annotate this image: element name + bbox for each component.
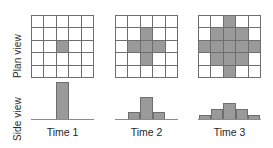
plan-cell-r2-c2 (211, 28, 222, 39)
plan-cell-r4-c5 (166, 53, 177, 64)
plan-cell-r3-c3 (224, 41, 235, 52)
plan-cell-r5-c3 (141, 66, 152, 77)
plan-cell-r3-c5 (249, 41, 260, 52)
side-view-baseline (198, 119, 261, 120)
side-view-bar-3 (223, 103, 235, 119)
side-view-bar-4 (153, 112, 165, 119)
plan-cell-r2-c3 (141, 28, 152, 39)
plan-cell-r5-c5 (166, 66, 177, 77)
side-view-chart-time-1 (31, 82, 94, 120)
plan-cell-r4-c3 (141, 53, 152, 64)
plan-cell-r4-c5 (249, 53, 260, 64)
plan-cell-r3-c2 (128, 41, 139, 52)
side-view-bar-2 (211, 109, 223, 119)
plan-cell-r4-c1 (199, 53, 210, 64)
plan-cell-r2-c5 (166, 28, 177, 39)
side-view-bars (115, 81, 178, 119)
plan-cell-r1-c2 (211, 16, 222, 27)
time-label-3: Time 3 (198, 126, 261, 138)
plan-cell-r5-c3 (224, 66, 235, 77)
side-view-bars (198, 81, 261, 119)
side-view-bar-3 (140, 97, 152, 119)
plan-cell-r3-c2 (44, 41, 55, 52)
plan-cell-r2-c5 (82, 28, 93, 39)
side-view-bar-4 (236, 109, 248, 119)
side-view-baseline (31, 119, 94, 120)
plan-cell-r3-c4 (69, 41, 80, 52)
plan-cell-r5-c5 (82, 66, 93, 77)
plan-cell-r4-c2 (211, 53, 222, 64)
plan-cell-r2-c1 (32, 28, 43, 39)
plan-cell-r3-c5 (82, 41, 93, 52)
plan-cell-r3-c1 (199, 41, 210, 52)
plan-cell-r2-c4 (153, 28, 164, 39)
plan-cell-r5-c4 (236, 66, 247, 77)
plan-cell-r2-c2 (44, 28, 55, 39)
plan-cell-r3-c2 (211, 41, 222, 52)
plan-cell-r5-c3 (57, 66, 68, 77)
plan-cell-r1-c1 (116, 16, 127, 27)
plan-cell-r5-c1 (116, 66, 127, 77)
plan-cell-r5-c1 (199, 66, 210, 77)
time-label-1: Time 1 (31, 126, 94, 138)
plan-cell-r1-c4 (69, 16, 80, 27)
plan-cell-r1-c3 (57, 16, 68, 27)
plan-cell-r1-c4 (153, 16, 164, 27)
side-view-bars (31, 81, 94, 119)
plan-cell-r1-c1 (199, 16, 210, 27)
plan-cell-r5-c2 (128, 66, 139, 77)
plan-cell-r5-c4 (69, 66, 80, 77)
plan-view-grid-time-2 (115, 15, 178, 78)
plan-cell-r1-c1 (32, 16, 43, 27)
plan-cell-r1-c3 (141, 16, 152, 27)
side-view-chart-time-3 (198, 82, 261, 120)
plan-cell-r3-c4 (236, 41, 247, 52)
plan-view-grid-time-3 (198, 15, 261, 78)
plan-cell-r4-c4 (69, 53, 80, 64)
plan-cell-r1-c5 (82, 16, 93, 27)
side-view-chart-time-2 (115, 82, 178, 120)
plan-cell-r3-c5 (166, 41, 177, 52)
plan-cell-r2-c1 (116, 28, 127, 39)
side-view-bar-3 (56, 82, 68, 119)
plan-cell-r1-c5 (249, 16, 260, 27)
plan-cell-r4-c4 (153, 53, 164, 64)
side-view-bar-2 (128, 112, 140, 119)
plan-cell-r3-c3 (141, 41, 152, 52)
plan-cell-r4-c2 (128, 53, 139, 64)
plan-cell-r1-c3 (224, 16, 235, 27)
plan-cell-r2-c5 (249, 28, 260, 39)
side-view-axis-label: Side view (12, 97, 23, 141)
side-view-baseline (115, 119, 178, 120)
plan-cell-r2-c2 (128, 28, 139, 39)
plan-cell-r4-c3 (224, 53, 235, 64)
plan-cell-r2-c4 (69, 28, 80, 39)
plan-cell-r4-c5 (82, 53, 93, 64)
figure-canvas: Plan view Side view Time 1 Time 2 Time 3 (0, 0, 273, 148)
plan-cell-r3-c3 (57, 41, 68, 52)
plan-cell-r5-c2 (211, 66, 222, 77)
plan-view-grid-time-1 (31, 15, 94, 78)
plan-view-axis-label: Plan view (12, 34, 23, 78)
plan-cell-r5-c4 (153, 66, 164, 77)
plan-cell-r5-c5 (249, 66, 260, 77)
plan-cell-r2-c4 (236, 28, 247, 39)
plan-cell-r1-c5 (166, 16, 177, 27)
plan-cell-r1-c2 (44, 16, 55, 27)
plan-cell-r3-c1 (116, 41, 127, 52)
plan-cell-r4-c4 (236, 53, 247, 64)
plan-cell-r4-c1 (116, 53, 127, 64)
time-label-2: Time 2 (115, 126, 178, 138)
plan-cell-r2-c3 (224, 28, 235, 39)
plan-cell-r4-c2 (44, 53, 55, 64)
plan-cell-r2-c1 (199, 28, 210, 39)
plan-cell-r3-c1 (32, 41, 43, 52)
plan-cell-r4-c3 (57, 53, 68, 64)
plan-cell-r4-c1 (32, 53, 43, 64)
plan-cell-r5-c1 (32, 66, 43, 77)
plan-cell-r5-c2 (44, 66, 55, 77)
plan-cell-r1-c4 (236, 16, 247, 27)
plan-cell-r1-c2 (128, 16, 139, 27)
plan-cell-r3-c4 (153, 41, 164, 52)
plan-cell-r2-c3 (57, 28, 68, 39)
